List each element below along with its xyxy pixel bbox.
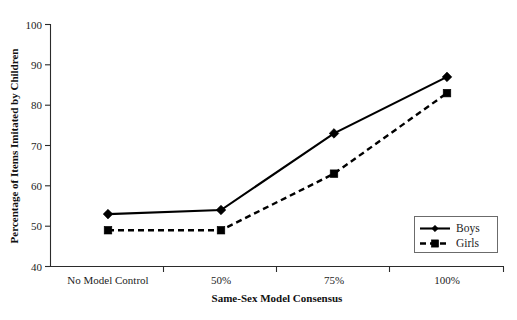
series-girls-point-2 [330, 170, 338, 178]
line-chart-canvas: 40 50 60 70 80 90 100 No Model Control 5… [0, 0, 517, 320]
chart-figure: 40 50 60 70 80 90 100 No Model Control 5… [0, 0, 517, 320]
y-tick-label-50: 50 [31, 220, 43, 232]
legend-marker-square-icon [431, 240, 438, 247]
y-tick-label-80: 80 [31, 99, 43, 111]
y-tick-label-90: 90 [31, 59, 43, 71]
chart-legend: Boys Girls [415, 217, 498, 253]
x-category-label-50: 50% [211, 274, 231, 286]
x-axis-title: Same-Sex Model Consensus [212, 292, 344, 304]
legend-label-girls: Girls [456, 237, 480, 249]
legend-label-boys: Boys [456, 222, 480, 235]
y-axis-title: Percentage of Items Imitated by Children [8, 49, 20, 244]
series-girls-point-1 [217, 226, 225, 234]
y-tick-label-60: 60 [31, 180, 43, 192]
y-tick-label-40: 40 [31, 261, 43, 273]
figure-background [0, 0, 517, 320]
x-category-label-no-model-control: No Model Control [67, 274, 148, 286]
y-tick-label-70: 70 [31, 140, 43, 152]
series-girls-point-0 [104, 226, 112, 234]
y-tick-label-100: 100 [26, 19, 43, 31]
x-category-label-100: 100% [434, 274, 460, 286]
series-girls-point-3 [443, 89, 451, 97]
x-category-label-75: 75% [324, 274, 344, 286]
